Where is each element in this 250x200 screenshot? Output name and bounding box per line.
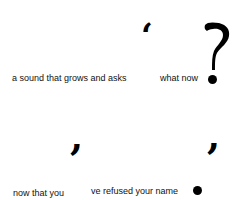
open-quote-mark: ‘: [141, 18, 153, 52]
question-mark-dot: [208, 75, 217, 84]
comma-left: ,: [70, 118, 83, 156]
poem-canvas: ‘ a sound that grows and asks what now ,…: [0, 0, 250, 200]
line1-right-text: what now: [160, 74, 198, 83]
comma-right: ,: [207, 117, 220, 155]
line2-left-text: now that you: [13, 189, 64, 198]
period-dot: [193, 186, 202, 195]
question-mark-glyph: [203, 22, 231, 74]
line2-right-text: ve refused your name: [91, 187, 178, 196]
line1-left-text: a sound that grows and asks: [12, 74, 127, 83]
